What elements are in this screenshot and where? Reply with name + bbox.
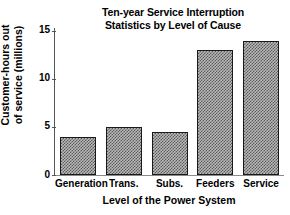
bar-subs bbox=[152, 132, 188, 175]
y-axis-label-line-2: of service (millions) bbox=[12, 15, 25, 135]
bar-generation bbox=[60, 137, 96, 175]
x-tick-label-generation: Generation bbox=[55, 178, 101, 190]
chart-title-line-1: Ten-year Service Interruption bbox=[60, 6, 286, 19]
y-tick-label: 10 bbox=[39, 72, 50, 83]
x-tick-label-feeders: Feeders bbox=[192, 178, 238, 190]
y-tick-label: 15 bbox=[39, 24, 50, 35]
y-axis-label-line-1: Customer-hours out bbox=[0, 15, 12, 135]
bar-series bbox=[55, 28, 284, 175]
y-tick-mark bbox=[52, 175, 56, 176]
y-tick-label: 5 bbox=[44, 120, 50, 131]
x-tick-label-trans: Trans. bbox=[101, 178, 147, 190]
bar-chart-figure: Ten-year Service Interruption Statistics… bbox=[0, 0, 290, 215]
x-tick-label-service: Service bbox=[238, 178, 284, 190]
y-axis-label-container: Customer-hours out of service (millions) bbox=[0, 15, 39, 135]
x-tick-label-subs: Subs. bbox=[147, 178, 193, 190]
bar-feeders bbox=[197, 50, 233, 175]
x-axis-label: Level of the Power System bbox=[54, 194, 284, 207]
y-axis-label: Customer-hours out of service (millions) bbox=[0, 15, 24, 135]
x-axis-spine bbox=[54, 175, 284, 176]
bar-trans bbox=[106, 127, 142, 175]
plot-area: 051015 GenerationTrans.Subs.FeedersServi… bbox=[54, 28, 284, 175]
y-tick-label: 0 bbox=[44, 169, 50, 180]
bar-service bbox=[243, 41, 279, 176]
